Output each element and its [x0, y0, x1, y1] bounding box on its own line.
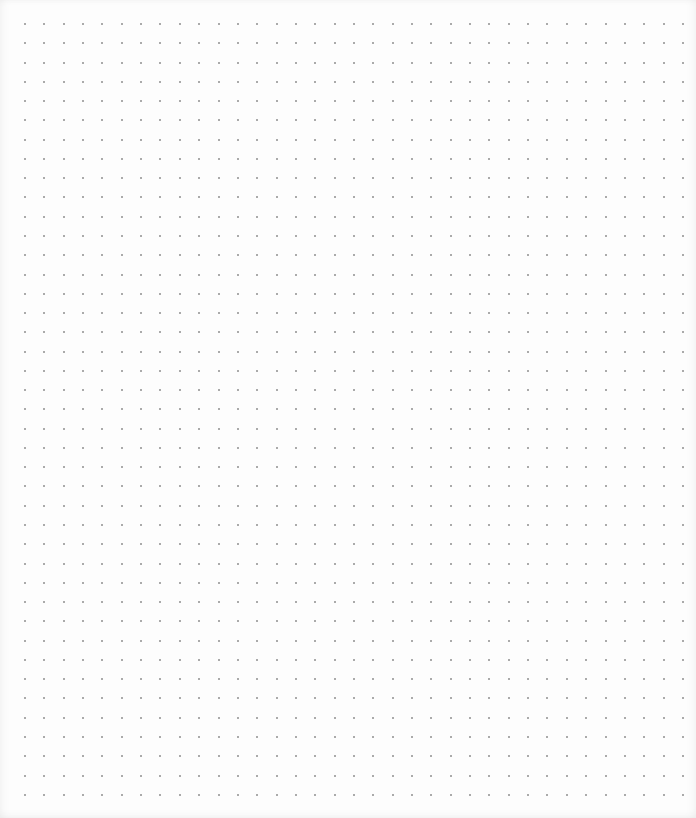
grid-dot [140, 428, 142, 430]
grid-dot [353, 620, 355, 622]
grid-dot [179, 119, 181, 121]
grid-dot [256, 563, 258, 565]
grid-dot [314, 582, 316, 584]
grid-dot [334, 23, 336, 25]
grid-dot [314, 543, 316, 545]
grid-dot [82, 139, 84, 141]
grid-dot [218, 659, 220, 661]
grid-dot [63, 274, 65, 276]
grid-dot [411, 139, 413, 141]
grid-dot [295, 428, 297, 430]
grid-dot [682, 717, 684, 719]
grid-dot [508, 312, 510, 314]
grid-dot [450, 23, 452, 25]
grid-dot [643, 755, 645, 757]
grid-dot [392, 485, 394, 487]
grid-dot [527, 717, 529, 719]
grid-dot [527, 139, 529, 141]
grid-dot [508, 640, 510, 642]
grid-dot [159, 794, 161, 796]
grid-dot [256, 659, 258, 661]
grid-dot [546, 408, 548, 410]
grid-dot [256, 428, 258, 430]
grid-dot [256, 755, 258, 757]
grid-dot [237, 447, 239, 449]
grid-dot [508, 351, 510, 353]
grid-dot [353, 505, 355, 507]
grid-dot [237, 331, 239, 333]
grid-dot [101, 408, 103, 410]
grid-dot [392, 563, 394, 565]
grid-dot [682, 466, 684, 468]
grid-dot [198, 659, 200, 661]
grid-dot [469, 505, 471, 507]
grid-dot [566, 505, 568, 507]
grid-dot [469, 62, 471, 64]
grid-dot [353, 408, 355, 410]
grid-dot [295, 601, 297, 603]
grid-dot [624, 62, 626, 64]
grid-dot [411, 563, 413, 565]
grid-dot [585, 351, 587, 353]
grid-dot [24, 794, 26, 796]
grid-dot [430, 640, 432, 642]
grid-dot [372, 775, 374, 777]
grid-dot [218, 640, 220, 642]
grid-dot [392, 620, 394, 622]
grid-dot [682, 678, 684, 680]
grid-dot [140, 254, 142, 256]
grid-dot [82, 196, 84, 198]
grid-dot [218, 408, 220, 410]
grid-dot [276, 312, 278, 314]
grid-dot [527, 563, 529, 565]
grid-dot [450, 582, 452, 584]
grid-dot [101, 505, 103, 507]
grid-dot [198, 640, 200, 642]
grid-dot [179, 23, 181, 25]
grid-dot [179, 485, 181, 487]
grid-dot [488, 23, 490, 25]
grid-dot [276, 620, 278, 622]
grid-dot [450, 485, 452, 487]
grid-dot [82, 563, 84, 565]
grid-dot [392, 794, 394, 796]
grid-dot [566, 177, 568, 179]
grid-dot [663, 274, 665, 276]
grid-dot [392, 697, 394, 699]
grid-dot [295, 158, 297, 160]
grid-dot [566, 119, 568, 121]
grid-dot [450, 659, 452, 661]
grid-dot [450, 601, 452, 603]
grid-dot [121, 216, 123, 218]
grid-dot [372, 697, 374, 699]
grid-dot [372, 196, 374, 198]
grid-dot [334, 678, 336, 680]
grid-dot [179, 158, 181, 160]
grid-dot [643, 389, 645, 391]
grid-dot [295, 42, 297, 44]
grid-dot [24, 312, 26, 314]
grid-dot [508, 370, 510, 372]
grid-dot [159, 524, 161, 526]
grid-dot [121, 505, 123, 507]
grid-dot [469, 312, 471, 314]
grid-dot [140, 736, 142, 738]
grid-dot [101, 659, 103, 661]
grid-dot [179, 235, 181, 237]
grid-dot [121, 447, 123, 449]
grid-dot [140, 775, 142, 777]
grid-dot [276, 389, 278, 391]
grid-dot [605, 139, 607, 141]
grid-dot [663, 81, 665, 83]
grid-dot [179, 601, 181, 603]
grid-dot [585, 428, 587, 430]
grid-dot [140, 139, 142, 141]
grid-dot [82, 775, 84, 777]
grid-dot [469, 659, 471, 661]
grid-dot [43, 428, 45, 430]
grid-dot [411, 100, 413, 102]
grid-dot [295, 717, 297, 719]
grid-dot [101, 485, 103, 487]
grid-dot [624, 485, 626, 487]
grid-dot [411, 466, 413, 468]
